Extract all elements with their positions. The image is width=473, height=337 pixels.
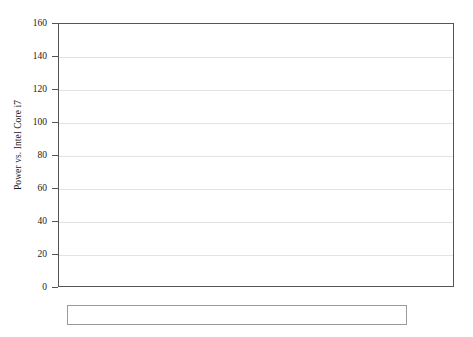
y-axis-tick-label: 100 [0,117,47,127]
plot-area [58,23,454,287]
y-axis-tick-label: 40 [0,216,47,226]
chart-legend [67,305,407,325]
y-axis-tick-label: 20 [0,249,47,259]
y-axis-tick-label: 60 [0,183,47,193]
y-axis-tick-label: 0 [0,282,47,292]
chart-container: Power vs. Intel Core i7 0204060801001201… [0,0,473,337]
bar-series-group [59,24,453,286]
y-axis-tick [52,287,58,288]
y-axis-tick-label: 160 [0,18,47,28]
y-axis-tick-label: 140 [0,51,47,61]
y-axis-title: Power vs. Intel Core i7 [8,0,28,290]
y-axis-tick-label: 120 [0,84,47,94]
y-axis-title-label: Power vs. Intel Core i7 [13,100,23,190]
y-axis-tick-label: 80 [0,150,47,160]
